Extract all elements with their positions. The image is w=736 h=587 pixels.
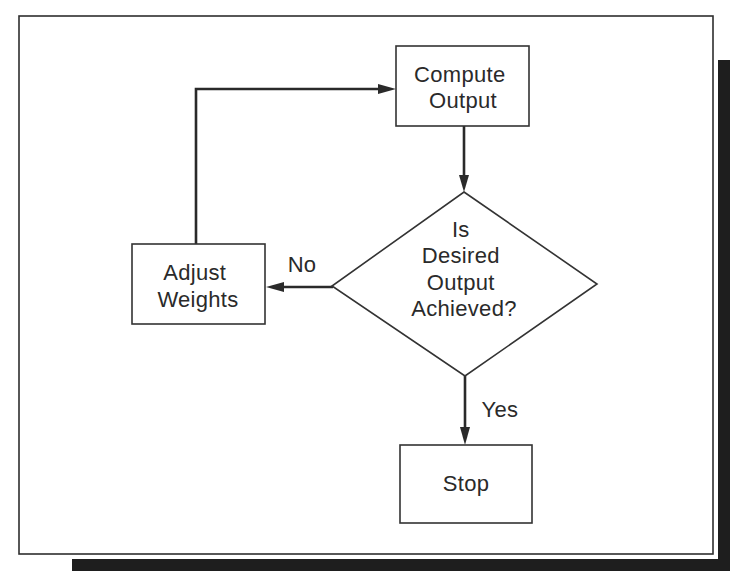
edge-label-no: No — [288, 252, 317, 277]
edge-label-yes: Yes — [482, 397, 519, 422]
node-label-line: Compute — [414, 62, 505, 87]
node-label-line: Achieved? — [411, 296, 516, 321]
frame-shadow-bottom — [72, 559, 730, 571]
node-label-line: Is — [452, 217, 470, 242]
node-label-line: Stop — [443, 471, 489, 496]
node-label: Stop — [443, 471, 489, 496]
node-compute-output: Compute Output — [396, 46, 529, 126]
node-label-line: Weights — [157, 287, 238, 312]
flowchart-canvas: No Yes Compute Output Is Desired Output … — [0, 0, 736, 587]
node-label-line: Adjust — [163, 260, 226, 285]
node-stop: Stop — [400, 445, 532, 523]
frame-shadow-right — [718, 60, 730, 571]
node-label-line: Desired — [422, 243, 500, 268]
node-label-line: Output — [427, 270, 495, 295]
node-adjust-weights: Adjust Weights — [132, 244, 265, 324]
node-label-line: Output — [429, 88, 497, 113]
